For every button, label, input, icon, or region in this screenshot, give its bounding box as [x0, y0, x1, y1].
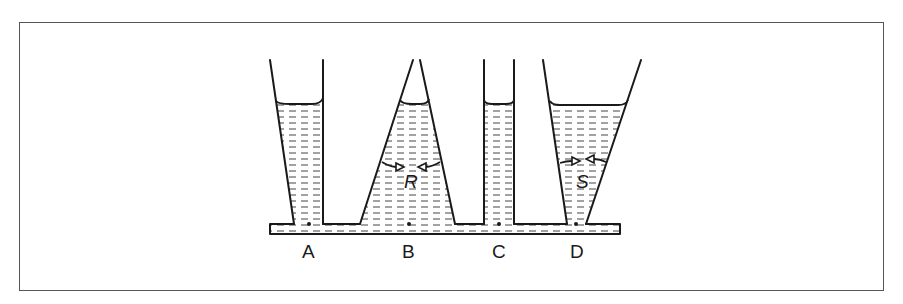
- region-label-s: S: [576, 171, 589, 192]
- liquid-fill: [271, 101, 627, 234]
- vessel-label-c: C: [492, 241, 506, 262]
- vessel-label-b: B: [402, 241, 415, 262]
- connected-vessels-diagram: R S A B C D: [0, 0, 903, 304]
- point-a: [307, 222, 311, 226]
- vessel-label-a: A: [302, 241, 315, 262]
- point-c: [497, 222, 501, 226]
- region-label-r: R: [404, 171, 418, 192]
- vessel-label-d: D: [570, 241, 584, 262]
- point-b: [407, 222, 411, 226]
- point-d: [574, 222, 578, 226]
